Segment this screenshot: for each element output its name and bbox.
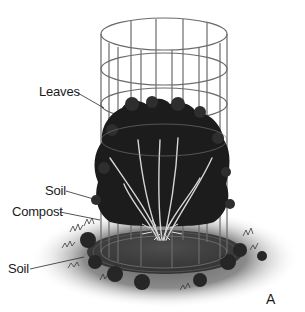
label-soil-lower: Soil (8, 261, 29, 276)
rose-cage-illustration (0, 0, 305, 312)
label-compost: Compost (12, 204, 63, 219)
label-soil-upper: Soil (45, 183, 66, 198)
diagram-figure: Leaves Soil Compost Soil A (0, 0, 305, 312)
panel-letter: A (266, 291, 275, 307)
label-leaves: Leaves (39, 84, 80, 99)
